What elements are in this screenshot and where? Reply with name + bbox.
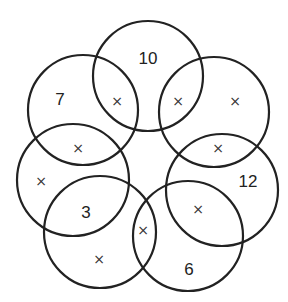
- number-label: 7: [55, 90, 64, 109]
- cross-mark-icon: ×: [212, 140, 224, 156]
- number-label: 12: [239, 172, 258, 191]
- cross-mark-icon: ×: [192, 201, 204, 217]
- number-label: 3: [81, 203, 90, 222]
- cross-mark-icon: ×: [137, 222, 149, 238]
- cross-mark-icon: ×: [172, 93, 184, 109]
- number-label: 6: [184, 260, 193, 279]
- number-label: 10: [139, 49, 158, 68]
- cross-mark-icon: ×: [72, 140, 84, 156]
- cross-mark-icon: ×: [111, 93, 123, 109]
- overlapping-circles-diagram: 1071236 ×××××××××: [0, 0, 288, 302]
- cross-mark-icon: ×: [93, 251, 105, 267]
- cross-mark-icon: ×: [35, 173, 47, 189]
- circle-top: [93, 21, 203, 131]
- cross-mark-icon: ×: [229, 93, 241, 109]
